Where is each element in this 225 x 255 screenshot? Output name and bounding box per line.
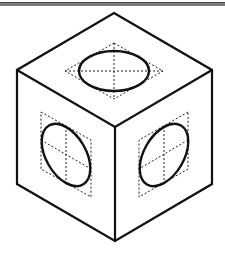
top-face-circle (65, 43, 163, 99)
right-face-circle (130, 112, 199, 197)
isometric-cube-diagram (0, 0, 225, 255)
left-face-circle (32, 112, 101, 197)
